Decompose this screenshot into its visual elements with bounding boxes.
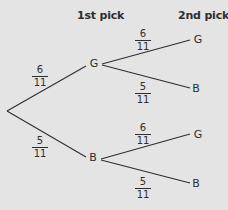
header-first-pick: 1st pick [77,9,124,22]
node-GB: B [190,83,202,95]
node-BG: G [192,129,204,141]
numerator: 6 [135,29,151,41]
denominator: 11 [32,148,48,159]
node-first-B: B [87,152,99,164]
prob-first-B: 5 11 [32,136,48,159]
numerator: 5 [32,136,48,148]
denominator: 11 [135,189,151,200]
denominator: 11 [135,41,151,52]
denominator: 11 [135,94,151,105]
numerator: 5 [135,177,151,189]
node-GG: G [192,34,204,46]
denominator: 11 [32,77,48,88]
numerator: 6 [135,123,151,135]
prob-B-then-B: 5 11 [135,177,151,200]
probability-tree-diagram: 1st pick 2nd pick G B G B G B 6 11 5 11 … [0,0,228,210]
prob-B-then-G: 6 11 [135,123,151,146]
numerator: 5 [135,82,151,94]
node-first-G: G [88,58,100,70]
header-second-pick: 2nd pick [178,9,228,22]
denominator: 11 [135,135,151,146]
prob-G-then-G: 6 11 [135,29,151,52]
numerator: 6 [32,65,48,77]
node-BB: B [190,178,202,190]
prob-G-then-B: 5 11 [135,82,151,105]
prob-first-G: 6 11 [32,65,48,88]
